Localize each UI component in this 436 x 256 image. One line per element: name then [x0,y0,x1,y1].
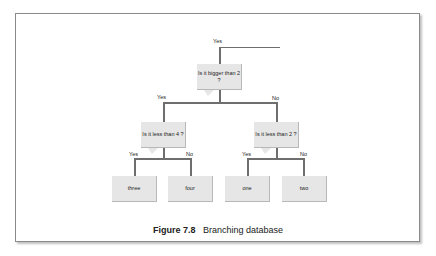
left-question-box: Is it less than 4 ? [141,122,186,148]
right-no-label: No [300,151,307,157]
right-yes-label: Yes [242,151,251,157]
leaf-label: three [128,185,141,192]
figure-title: Branching database [203,225,283,235]
leaf-label: four [185,185,194,192]
right-no-drop-line [303,158,305,176]
left-question-text: Is it less than 4 ? [142,131,183,138]
left-yes-label: Yes [129,151,138,157]
root-no-label: No [272,95,279,101]
figure-number: Figure 7.8 [153,225,196,235]
root-yes-drop-line [163,102,165,122]
leaf-box-four: four [168,176,213,202]
root-yes-label: Yes [157,94,166,100]
leaf-box-three: three [112,176,157,202]
right-yes-drop-line [247,158,249,176]
leaf-label: two [300,185,309,192]
root-no-drop-line [276,102,278,122]
leaf-label: one [242,185,251,192]
right-branch-line [247,158,305,160]
root-question-text: Is it bigger than 2 ? [197,70,241,83]
leaf-box-two: two [282,176,327,202]
left-branch-line [134,158,192,160]
entry-yes-label: Yes [213,38,222,44]
leaf-box-one: one [225,176,270,202]
right-question-text: Is it less than 2 ? [255,131,296,138]
right-callout-tail [261,148,271,154]
root-question-box: Is it bigger than 2 ? [197,64,242,90]
root-branch-line [163,102,278,104]
left-callout-tail [148,148,158,154]
figure-caption: Figure 7.8 Branching database [0,225,436,235]
right-question-box: Is it less than 2 ? [254,122,299,148]
left-no-drop-line [190,158,192,176]
entry-vertical-line [219,47,221,64]
root-callout-tail [204,90,214,96]
left-yes-drop-line [134,158,136,176]
entry-horizontal-line [219,47,280,48]
left-no-label: No [186,151,193,157]
figure-frame [15,13,420,242]
